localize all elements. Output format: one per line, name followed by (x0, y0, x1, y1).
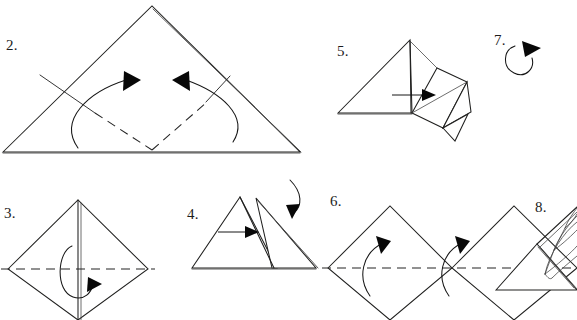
step-6-number: 6. (330, 193, 342, 209)
step-4-number: 4. (187, 206, 199, 222)
step-5-number: 5. (337, 43, 349, 59)
step-8-number: 8. (535, 199, 547, 215)
step-7-number: 7. (494, 32, 506, 48)
origami-diagram-sheet: 2. 3. 4. (0, 0, 577, 320)
diagram-canvas: 2. 3. 4. (0, 0, 577, 320)
step-2-number: 2. (6, 37, 18, 53)
step-3-number: 3. (4, 205, 16, 221)
